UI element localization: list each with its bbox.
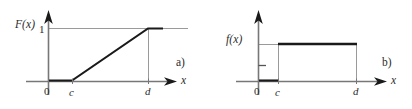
panel-tag-a: a) — [176, 57, 185, 69]
x-tick-label-c: c — [69, 87, 74, 98]
panel-b-plot — [206, 0, 412, 109]
cdf-curve — [49, 29, 163, 81]
figure-container: F(x) 1 0 c d x a) — [0, 0, 412, 109]
panel-b-pdf: f(x) 0 c d x b) — [206, 0, 412, 109]
x-tick-label-d: d — [353, 86, 359, 97]
y-tick-label-1: 1 — [39, 24, 45, 35]
y-axis-label: F(x) — [15, 19, 35, 31]
panel-a-cdf: F(x) 1 0 c d x a) — [0, 0, 206, 109]
panel-tag-b: b) — [382, 57, 392, 69]
x-tick-label-0: 0 — [254, 86, 260, 97]
x-tick-label-d: d — [145, 86, 151, 97]
x-axis-label: x — [181, 75, 186, 87]
x-axis-label: x — [391, 75, 396, 87]
panel-a-plot — [0, 0, 206, 109]
x-tick-label-0: 0 — [44, 86, 50, 97]
x-tick-label-c: c — [275, 87, 280, 98]
y-axis-label: f(x) — [226, 34, 242, 46]
